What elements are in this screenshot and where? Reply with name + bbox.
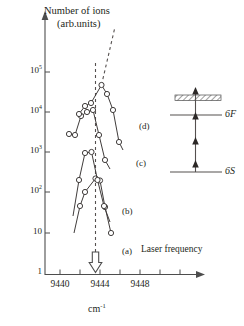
x-axis-unit-label: cm-1 [88, 304, 106, 314]
y-axis-label-line2: (arb.units) [57, 19, 100, 30]
x-axis-ticks [60, 270, 180, 275]
laser-frequency-label: Laser frequency [141, 245, 202, 255]
x-axis [45, 271, 205, 278]
curve-label-c: (c) [136, 159, 146, 168]
y-tick-label-1e3: 103 [12, 146, 42, 155]
curve-label-d: (d) [139, 122, 150, 131]
level-label-6f: 6F [225, 109, 236, 119]
y-tick-label-1e2: 102 [12, 186, 42, 195]
x-tick-label-9448: 9448 [120, 280, 160, 290]
figure-root: Number of ions (arb.units) 105 104 103 1… [0, 0, 244, 326]
y-axis-ticks [45, 72, 50, 233]
steep-dashed-extrapolation [102, 27, 116, 85]
x-tick-label-9444: 9444 [80, 280, 120, 290]
laser-frequency-arrow-icon [89, 252, 102, 273]
spectrum-plot [0, 0, 244, 326]
curve-label-b: (b) [122, 207, 133, 216]
curve-c [66, 107, 110, 169]
y-tick-label-1e4: 104 [12, 106, 42, 115]
x-tick-label-9440: 9440 [40, 280, 80, 290]
y-tick-label-1: 1 [12, 267, 42, 276]
y-axis-label-line1: Number of ions [44, 6, 110, 17]
ionization-continuum-hatch [175, 95, 221, 101]
energy-level-inset [170, 87, 222, 172]
y-tick-label-10: 10 [12, 227, 42, 236]
level-label-6s: 6S [225, 166, 235, 176]
y-tick-label-1e5: 105 [12, 66, 42, 75]
curve-label-a: (a) [122, 247, 132, 256]
y-axis [42, 11, 49, 275]
curve-a [74, 176, 114, 236]
